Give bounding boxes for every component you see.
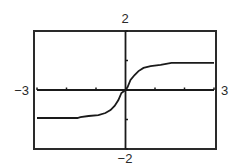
graph-window: 2 −2 −3 3 [0, 0, 235, 166]
xmax-label: 3 [221, 83, 228, 98]
ymax-label: 2 [121, 11, 128, 26]
xmin-label: −3 [14, 83, 29, 98]
ymin-label: −2 [118, 151, 133, 166]
